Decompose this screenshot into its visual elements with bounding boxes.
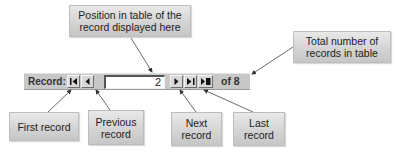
arrow-previous [96, 90, 110, 110]
callout-last-line1: Last [244, 117, 274, 129]
arrow-total [252, 47, 293, 74]
callout-last-record: Last record [233, 112, 285, 146]
callout-next-line2: record [182, 129, 212, 141]
arrow-position [131, 38, 152, 72]
callout-next-line1: Next [182, 117, 212, 129]
arrow-last [204, 90, 253, 112]
callout-previous-line2: record [96, 128, 137, 140]
callout-next-record: Next record [171, 112, 222, 146]
callout-previous-record: Previous record [88, 110, 144, 145]
callout-first-record: First record [9, 112, 79, 141]
callout-previous-line1: Previous [96, 116, 137, 128]
arrow-first [48, 90, 71, 112]
callout-first-text: First record [17, 121, 70, 133]
arrow-next [180, 90, 196, 112]
callout-last-line2: record [244, 129, 274, 141]
